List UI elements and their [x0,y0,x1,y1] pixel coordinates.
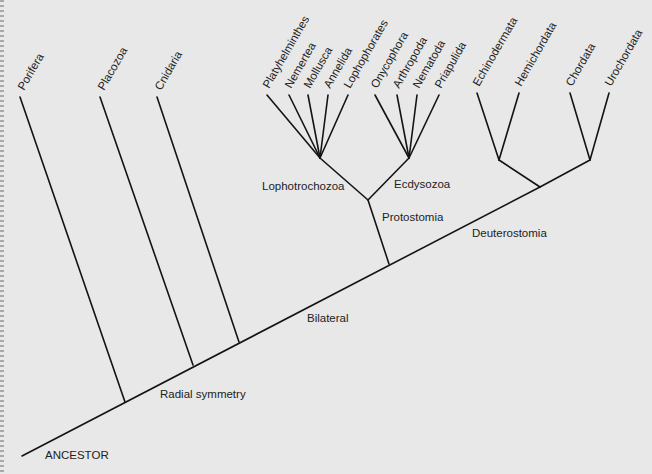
taxon-label-placozoa: Placozoa [95,45,129,92]
root-label-ancestor: ANCESTOR [45,449,109,461]
clade-label-deuterostomia: Deuterostomia [472,227,547,239]
trunk-branch [22,187,540,456]
clade-label-ecdysozoa: Ecdysozoa [394,178,451,190]
branch-cnidaria [157,97,239,342]
branch-urochordata [590,93,609,160]
branch-chordate-clade [540,160,590,187]
branch-hemichordata [499,93,519,160]
clade-label-protostomia: Protostomia [382,211,444,223]
taxon-label-echinodermata: Echinodermata [470,14,519,88]
clade-label-radial-symmetry: Radial symmetry [160,388,246,400]
branch-lophotrochozoa [320,158,368,200]
taxon-label-cnidaria: Cnidaria [152,48,184,92]
branch-ambulacraria [499,160,540,187]
branch-chordata [570,93,590,160]
branch-echinodermata [477,93,499,160]
taxon-label-hemichordata: Hemichordata [512,19,558,88]
clade-label-bilateral: Bilateral [307,312,349,324]
branch-onycophora [375,95,409,158]
branch-porifera [20,97,125,402]
taxon-label-chordata: Chordata [563,41,597,88]
clade-label-lophotrochozoa: Lophotrochozoa [262,180,345,192]
branch-mollusca [308,95,320,158]
branch-placozoa [100,97,193,365]
branch-protostomia [368,200,389,264]
phylogenetic-tree: Porifera Placozoa Cnidaria Platyhelminth… [0,0,652,474]
taxon-label-porifera: Porifera [15,51,46,92]
taxon-label-urochordata: Urochordata [602,27,644,88]
